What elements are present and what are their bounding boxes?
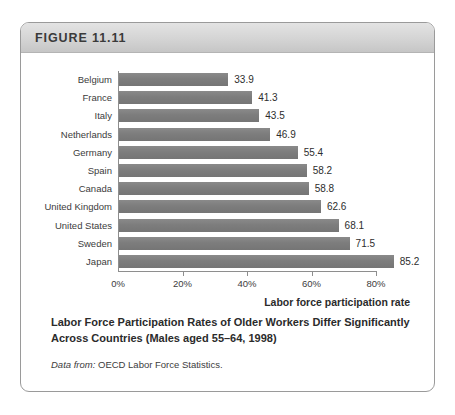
bar-category-label: Spain — [88, 164, 112, 177]
bar-category-label: Germany — [73, 146, 112, 159]
bar-value-label: 85.2 — [400, 256, 419, 267]
bar-value-label: 68.1 — [345, 220, 364, 231]
bar-row: Germany55.4 — [119, 146, 323, 159]
bar-row: Italy43.5 — [119, 109, 285, 122]
bar — [119, 128, 270, 141]
figure-number-label: FIGURE 11.11 — [35, 31, 126, 45]
bar-row: France41.3 — [119, 91, 278, 104]
bar-value-label: 46.9 — [276, 129, 295, 140]
bar-row: Sweden71.5 — [119, 237, 375, 250]
bar — [119, 237, 350, 250]
bar — [119, 146, 298, 159]
x-axis-tick — [312, 271, 313, 276]
x-axis-tick — [247, 271, 248, 276]
source-prefix: Data from: — [51, 359, 95, 370]
bar — [119, 109, 259, 122]
bar — [119, 91, 252, 104]
bar-value-label: 62.6 — [327, 201, 346, 212]
bar-row: United Kingdom62.6 — [119, 200, 346, 213]
bar — [119, 164, 307, 177]
caption-source: Data from: OECD Labor Force Statistics. — [51, 359, 411, 370]
bar-value-label: 33.9 — [234, 74, 253, 85]
plot-area: Belgium33.9France41.3Italy43.5Netherland… — [118, 71, 435, 271]
bar-value-label: 43.5 — [265, 110, 284, 121]
x-axis-tick-label: 60% — [302, 278, 321, 289]
bar-value-label: 58.2 — [313, 165, 332, 176]
x-axis-tick-label: 40% — [237, 278, 256, 289]
x-axis-title: Labor force participation rate — [118, 296, 435, 308]
bar-category-label: Canada — [79, 182, 112, 195]
bar-row: Spain58.2 — [119, 164, 332, 177]
figure-header: FIGURE 11.11 — [21, 23, 434, 53]
bar-value-label: 71.5 — [356, 238, 375, 249]
bar-chart: Belgium33.9France41.3Italy43.5Netherland… — [21, 53, 435, 293]
bar — [119, 255, 394, 268]
bar-value-label: 55.4 — [304, 147, 323, 158]
bar-category-label: Japan — [86, 255, 112, 268]
bar-category-label: Italy — [95, 109, 112, 122]
bar-row: Japan85.2 — [119, 255, 419, 268]
source-text: OECD Labor Force Statistics. — [98, 359, 223, 370]
caption-title: Labor Force Participation Rates of Older… — [51, 315, 411, 347]
bar — [119, 200, 321, 213]
bar-row: Belgium33.9 — [119, 73, 254, 86]
x-axis-tick — [183, 271, 184, 276]
figure-card: FIGURE 11.11 Belgium33.9France41.3Italy4… — [20, 22, 435, 392]
bar-category-label: France — [82, 91, 112, 104]
x-axis-tick-label: 20% — [173, 278, 192, 289]
bar — [119, 73, 228, 86]
bar-value-label: 58.8 — [315, 183, 334, 194]
bar-category-label: United States — [55, 219, 112, 232]
x-axis-tick-label: 80% — [366, 278, 385, 289]
bar-row: Netherlands46.9 — [119, 128, 296, 141]
bar-row: Canada58.8 — [119, 182, 334, 195]
bar-row: United States68.1 — [119, 219, 364, 232]
bar-category-label: United Kingdom — [44, 200, 112, 213]
bar-category-label: Belgium — [78, 73, 112, 86]
figure-caption: Labor Force Participation Rates of Older… — [51, 315, 411, 370]
bar — [119, 219, 339, 232]
bar-category-label: Sweden — [78, 237, 112, 250]
x-axis-tick — [376, 271, 377, 276]
bar-value-label: 41.3 — [258, 92, 277, 103]
x-axis-tick-label: 0% — [111, 278, 125, 289]
bar-category-label: Netherlands — [61, 128, 112, 141]
bar — [119, 182, 309, 195]
